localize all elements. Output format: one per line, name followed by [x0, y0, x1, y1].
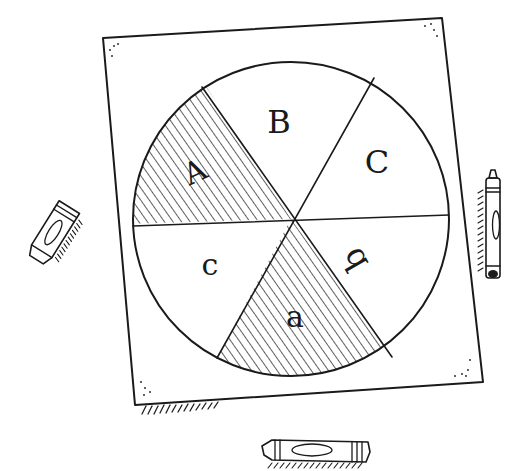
segment-label-c: c — [202, 247, 219, 282]
crayon-bottom — [262, 440, 370, 468]
segment-label-B: B — [267, 103, 291, 141]
segment-label-b: b — [333, 241, 376, 278]
crayon-right-end — [488, 270, 498, 278]
segment-A-shading — [60, 80, 291, 226]
segment-label-C: C — [365, 143, 389, 181]
crayon-right — [478, 170, 500, 278]
illustration-canvas: B C A c b a — [0, 0, 514, 471]
segment-label-a: a — [286, 299, 304, 334]
crayon-left — [26, 201, 86, 271]
